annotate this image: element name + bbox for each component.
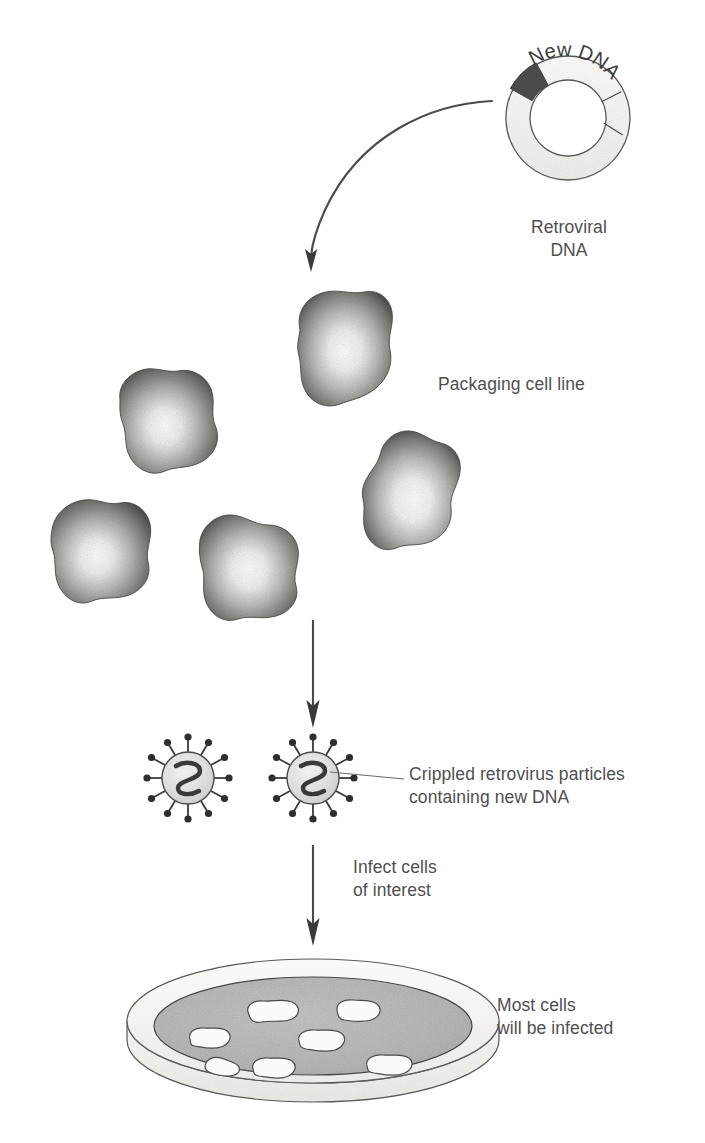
retrovirus-particle-icon — [143, 733, 232, 822]
infect-cells-label: Infect cellsof interest — [353, 856, 437, 902]
most-cells-infected-label: Most cellswill be infected — [497, 994, 613, 1040]
cell-blob-icon — [120, 369, 218, 473]
retroviral-dna-line2: DNA — [550, 240, 587, 260]
most-cells-line1: Most cells — [497, 995, 576, 1015]
retrovirus-particle-icon — [268, 733, 357, 822]
cell-blob-icon — [51, 500, 151, 603]
crippled-line2: containing new DNA — [409, 787, 569, 807]
infect-line1: Infect cells — [353, 857, 437, 877]
infect-line2: of interest — [353, 880, 431, 900]
curved-arrow-icon — [305, 101, 492, 272]
cell-blob-icon — [298, 291, 393, 406]
diagram-graphics: New DNA — [0, 0, 705, 1143]
crippled-retrovirus-label: Crippled retrovirus particlescontaining … — [409, 763, 625, 809]
cell-blob-icon — [362, 431, 460, 550]
retroviral-dna-line1: Retroviral — [531, 217, 607, 237]
diagram-canvas: New DNA — [0, 0, 705, 1143]
cell-blob-icon — [199, 515, 298, 620]
packaging-cell-cluster — [51, 291, 460, 620]
crippled-line1: Crippled retrovirus particles — [409, 764, 625, 784]
retroviral-dna-label: RetroviralDNA — [508, 216, 630, 262]
petri-dish-icon — [127, 959, 499, 1102]
down-arrow-icon — [306, 620, 319, 728]
most-cells-line2: will be infected — [497, 1018, 613, 1038]
packaging-cell-line-label: Packaging cell line — [438, 373, 585, 396]
down-arrow-icon — [306, 845, 319, 946]
